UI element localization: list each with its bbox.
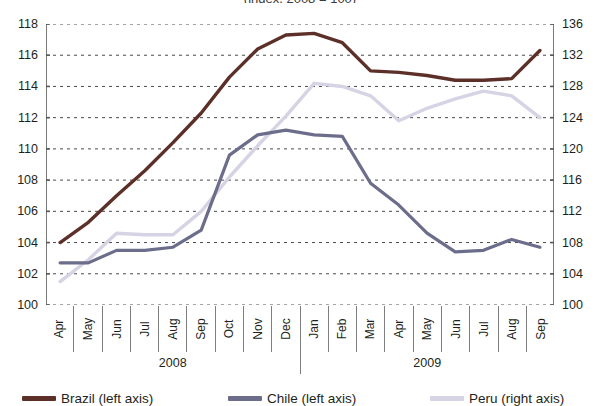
x-axis-year-label: 2008 [46, 352, 300, 374]
chart-figure: (index, 2008 = 100) 10010210410610811011… [0, 0, 600, 406]
x-axis-month-label: Jun [109, 319, 123, 338]
chart-title: (index, 2008 = 100) [0, 0, 600, 3]
x-axis-month-label: Jun [449, 319, 463, 338]
y-axis-left-tick-label: 108 [4, 174, 38, 186]
x-axis-month-label: Aug [166, 318, 180, 339]
x-axis-month-cell: Sep [186, 306, 214, 352]
x-axis-month-label: Feb [335, 319, 349, 340]
x-axis-month-label: Apr [53, 320, 67, 339]
x-axis-month-label: Nov [251, 318, 265, 339]
x-axis-month-label: Apr [392, 320, 406, 339]
x-axis-month-label: Jul [477, 321, 491, 336]
legend-label: Chile (left axis) [267, 391, 356, 406]
legend-label: Peru (right axis) [469, 391, 564, 406]
y-axis-left-tick-label: 116 [4, 49, 38, 61]
x-axis-month-cell: Oct [215, 306, 243, 352]
x-axis-month-cell: Apr [46, 306, 73, 352]
y-axis-right-tick-label: 116 [562, 174, 600, 186]
legend-label: Brazil (left axis) [61, 391, 153, 406]
legend-swatch [228, 396, 262, 401]
plot-area [46, 24, 554, 305]
y-axis-left-tick-label: 114 [4, 80, 38, 92]
x-axis-month-cell: Sep [526, 306, 554, 352]
y-axis-right-tick-label: 124 [562, 112, 600, 124]
y-axis-right-tick-label: 136 [562, 18, 600, 30]
y-axis-left-tick-label: 118 [4, 18, 38, 30]
x-axis-years: 20082009 [46, 352, 554, 374]
x-axis-month-label: Jul [137, 321, 151, 336]
y-axis-left-tick-label: 100 [4, 299, 38, 311]
x-axis-month-cell: Jan [300, 306, 328, 352]
x-axis-month-cell: May [413, 306, 441, 352]
x-axis-month-label: Sep [533, 318, 547, 339]
y-axis-left-tick-label: 104 [4, 237, 38, 249]
y-axis-right-tick-label: 132 [562, 49, 600, 61]
y-axis-right-tick-label: 120 [562, 143, 600, 155]
x-axis-month-cell: Dec [271, 306, 299, 352]
legend-item: Peru (right axis) [430, 391, 564, 406]
y-axis-left-tick-label: 112 [4, 112, 38, 124]
y-axis-left-tick-label: 110 [4, 143, 38, 155]
x-axis-month-cell: Jun [102, 306, 130, 352]
x-axis-month-cell: Feb [328, 306, 356, 352]
x-axis-month-label: May [81, 318, 95, 341]
x-axis-month-label: Aug [505, 318, 519, 339]
y-axis-right-tick-label: 100 [562, 299, 600, 311]
x-axis-month-label: Sep [194, 318, 208, 339]
x-axis-months: AprMayJunJulAugSepOctNovDecJanFebMarAprM… [46, 306, 554, 352]
x-axis-month-label: Dec [279, 318, 293, 339]
x-axis-month-cell: Jul [130, 306, 158, 352]
x-axis-month-label: Mar [364, 319, 378, 340]
x-axis-month-cell: Jun [441, 306, 469, 352]
legend-item: Brazil (left axis) [22, 391, 153, 406]
y-axis-right-tick-label: 112 [562, 205, 600, 217]
x-axis-month-label: May [420, 318, 434, 341]
x-axis-month-cell: Apr [384, 306, 412, 352]
chart-legend: Brazil (left axis)Chile (left axis)Peru … [0, 381, 600, 406]
x-axis-month-label: Jan [307, 319, 321, 338]
y-axis-right-tick-label: 108 [562, 237, 600, 249]
x-axis-month-cell: Nov [243, 306, 271, 352]
y-axis-right-tick-label: 128 [562, 80, 600, 92]
x-axis-month-cell: May [73, 306, 101, 352]
legend-swatch [22, 396, 56, 401]
x-axis-month-cell: Mar [356, 306, 384, 352]
x-axis-month-cell: Aug [158, 306, 186, 352]
y-axis-left-tick-label: 106 [4, 205, 38, 217]
plot-svg [46, 24, 554, 305]
x-axis-year-label: 2009 [300, 352, 555, 374]
x-axis-month-cell: Aug [498, 306, 526, 352]
y-axis-left-tick-label: 102 [4, 268, 38, 280]
y-axis-right-tick-label: 104 [562, 268, 600, 280]
legend-item: Chile (left axis) [228, 391, 356, 406]
legend-swatch [430, 396, 464, 401]
x-axis-month-label: Oct [222, 320, 236, 339]
x-axis-month-cell: Jul [469, 306, 497, 352]
